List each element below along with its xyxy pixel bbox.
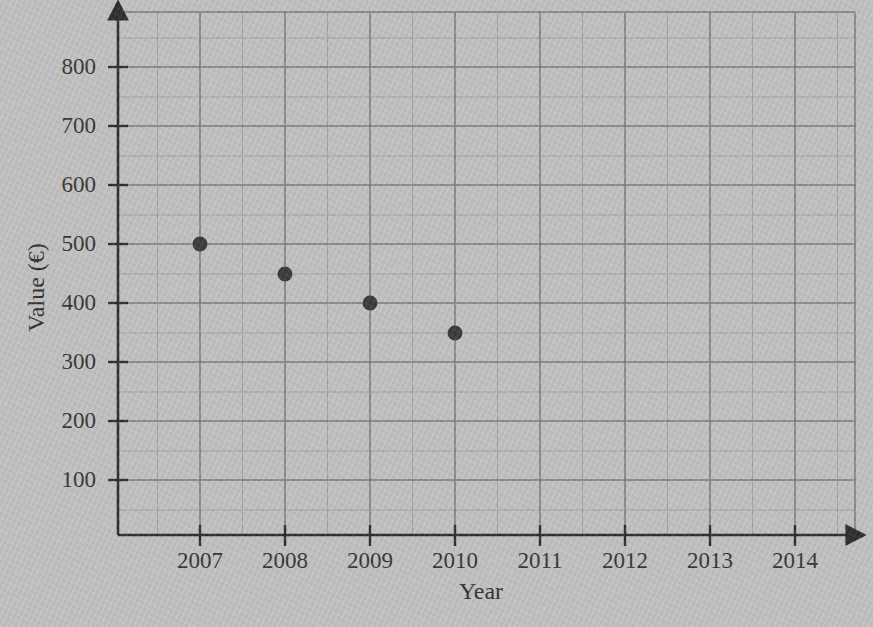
- x-tick-label-2014: 2014: [772, 548, 818, 574]
- x-tick-label-2011: 2011: [517, 548, 562, 574]
- y-tick-label-800: 800: [18, 54, 96, 80]
- y-axis-title: Value (€): [23, 208, 50, 368]
- y-tick-label-200: 200: [18, 408, 96, 434]
- x-axis-title: Year: [406, 578, 556, 605]
- y-tick-label-600: 600: [18, 172, 96, 198]
- x-tick-label-2008: 2008: [262, 548, 308, 574]
- chart-plot-area: [0, 0, 873, 627]
- x-tick-label-2007: 2007: [177, 548, 223, 574]
- data-point: [448, 326, 463, 341]
- chart-figure: 100 200 300 400 500 600 700 800 2007 200…: [0, 0, 873, 627]
- x-tick-label-2009: 2009: [347, 548, 393, 574]
- axis-lines: [118, 18, 848, 535]
- data-point: [193, 237, 208, 252]
- x-tick-label-2010: 2010: [432, 548, 478, 574]
- gridlines-minor: [118, 12, 855, 535]
- x-tick-label-2012: 2012: [602, 548, 648, 574]
- data-point: [363, 296, 378, 311]
- y-tick-label-100: 100: [18, 467, 96, 493]
- x-tick-label-2013: 2013: [687, 548, 733, 574]
- data-point: [278, 267, 293, 282]
- y-tick-label-700: 700: [18, 113, 96, 139]
